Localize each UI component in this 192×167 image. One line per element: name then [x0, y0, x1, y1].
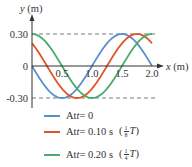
legend-fraction: (18T): [119, 125, 139, 138]
legend-label-prefix: At: [66, 126, 77, 137]
legend-label-rest: = 0: [79, 110, 93, 121]
legend-label-prefix: At: [66, 110, 77, 121]
legend-fraction: (14T): [119, 148, 139, 161]
legend-label-rest: = 0.10 s: [79, 126, 113, 137]
legend: At t = 0 At t = 0.10 s (18T) At t = 0.20…: [0, 0, 192, 167]
fraction-numerator: 1: [124, 125, 129, 132]
legend-item-t010: At t = 0.10 s (18T): [44, 125, 139, 138]
legend-item-t0: At t = 0: [44, 110, 93, 121]
legend-swatch-green: [44, 154, 60, 156]
fraction-numerator: 1: [124, 148, 129, 155]
fraction-denominator: 4: [125, 155, 128, 161]
legend-swatch-blue: [44, 115, 60, 117]
fraction-var: T: [130, 125, 136, 136]
legend-item-t020: At t = 0.20 s (14T): [44, 148, 139, 161]
legend-swatch-red: [44, 131, 60, 133]
fraction-var: T: [130, 148, 136, 159]
legend-label-rest: = 0.20 s: [79, 149, 113, 160]
fraction-denominator: 8: [125, 132, 128, 138]
legend-label-prefix: At: [66, 149, 77, 160]
